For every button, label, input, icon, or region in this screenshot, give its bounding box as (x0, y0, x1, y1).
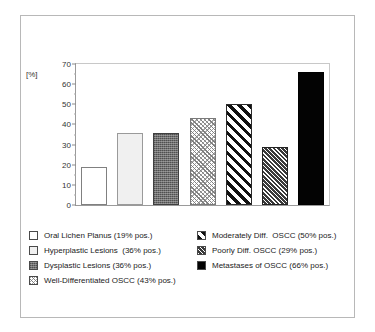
y-axis-tick-label: 60 (62, 80, 71, 89)
legend-item-label: Metastases of OSCC (66% pos.) (212, 262, 328, 270)
bar (117, 133, 143, 206)
swatch-lighthatch-icon (29, 276, 38, 285)
y-axis-tick-label: 20 (62, 160, 71, 169)
legend-item[interactable]: Hyperplastic Lesions (36% pos.) (29, 243, 176, 258)
legend-item[interactable]: Metastases of OSCC (66% pos.) (197, 258, 336, 273)
legend-item-label: Moderately Diff. OSCC (50% pos.) (212, 232, 336, 240)
swatch-darkgray-icon (29, 261, 38, 270)
y-axis-title: [%] (26, 70, 38, 79)
legend-item-label: Poorly Diff. OSCC (29% pos.) (212, 247, 317, 255)
legend-item[interactable]: Poorly Diff. OSCC (29% pos.) (197, 243, 336, 258)
y-axis-tick-label: 70 (62, 60, 71, 69)
swatch-densehatch-icon (197, 246, 206, 255)
y-axis-tick-label: 40 (62, 120, 71, 129)
legend-item-label: Oral Lichen Planus (19% pos.) (44, 232, 153, 240)
plot-area: 010203040506070 (75, 63, 330, 206)
chart-figure: [%] 010203040506070 Oral Lichen Planus (… (20, 15, 355, 318)
bar (226, 104, 252, 205)
swatch-boldhatch-icon (197, 231, 206, 240)
bar (262, 147, 288, 205)
legend-item[interactable]: Oral Lichen Planus (19% pos.) (29, 228, 176, 243)
bar (298, 72, 324, 205)
y-axis-tick-label: 10 (62, 180, 71, 189)
legend-item-label: Hyperplastic Lesions (36% pos.) (44, 247, 161, 255)
bar (81, 167, 107, 205)
bar-chart: [%] 010203040506070 (21, 16, 356, 221)
legend-column-right: Moderately Diff. OSCC (50% pos.)Poorly D… (197, 228, 336, 273)
y-axis-tick-label: 0 (67, 201, 71, 210)
bar-series (76, 64, 329, 205)
y-axis-tick-label: 50 (62, 100, 71, 109)
bar (153, 133, 179, 206)
legend-item[interactable]: Well-Differentiated OSCC (43% pos.) (29, 273, 176, 288)
legend-column-left: Oral Lichen Planus (19% pos.)Hyperplasti… (29, 228, 176, 288)
legend-item-label: Dysplastic Lesions (36% pos.) (44, 262, 151, 270)
legend-item[interactable]: Moderately Diff. OSCC (50% pos.) (197, 228, 336, 243)
swatch-black-icon (197, 261, 206, 270)
legend-item-label: Well-Differentiated OSCC (43% pos.) (44, 277, 176, 285)
legend-item[interactable]: Dysplastic Lesions (36% pos.) (29, 258, 176, 273)
swatch-lightgray-icon (29, 246, 38, 255)
y-axis-tick-label: 30 (62, 140, 71, 149)
swatch-white-icon (29, 231, 38, 240)
bar (190, 118, 216, 205)
chart-legend: Oral Lichen Planus (19% pos.)Hyperplasti… (21, 228, 356, 308)
